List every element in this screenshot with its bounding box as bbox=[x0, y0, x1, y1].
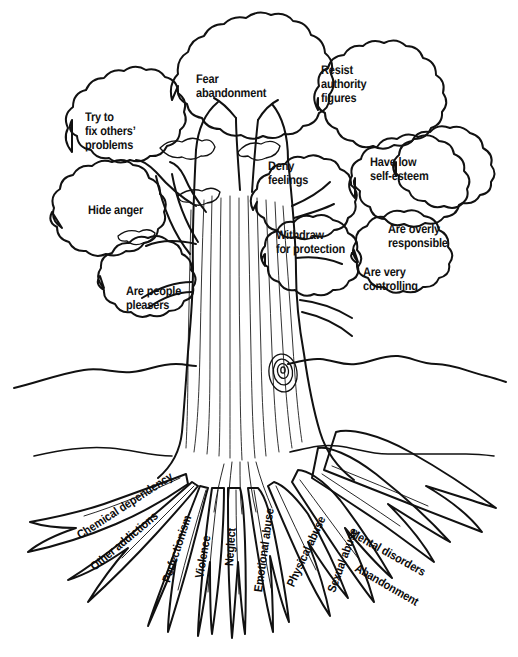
soil-line bbox=[34, 445, 494, 456]
root-label-neglect[interactable]: Neglect bbox=[223, 528, 238, 567]
leaf-label-resist-authority-figures[interactable]: Resist authority figures bbox=[321, 63, 366, 105]
leaf-label-withdraw-for-protection[interactable]: Withdraw for protection bbox=[276, 228, 345, 256]
ground-line bbox=[14, 356, 506, 388]
leaf-label-are-people-pleasers[interactable]: Are people pleasers bbox=[126, 284, 181, 312]
leaf-label-are-very-controlling[interactable]: Are very controlling bbox=[363, 265, 418, 293]
leaf-label-try-to-fix-others[interactable]: Try to fix others’ problems bbox=[85, 110, 136, 152]
leaf-label-hide-anger[interactable]: Hide anger bbox=[88, 203, 143, 217]
diagram-canvas: Fear abandonment Try to fix others’ prob… bbox=[0, 0, 518, 657]
leaf-label-are-overly-responsible[interactable]: Are overly responsible bbox=[388, 222, 448, 250]
leaf-label-have-low-self-esteem[interactable]: Have low self-esteem bbox=[370, 155, 429, 183]
leaf-label-fear-abandonment[interactable]: Fear abandonment bbox=[196, 72, 266, 100]
leaf-label-deny-feelings[interactable]: Deny feelings bbox=[268, 159, 308, 187]
